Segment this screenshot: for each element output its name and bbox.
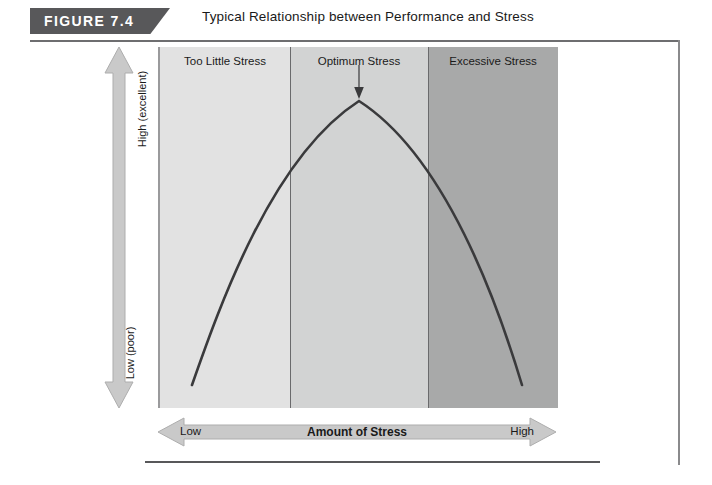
footer-rule <box>145 461 600 463</box>
y-axis-title: Level of Performance <box>104 217 134 231</box>
x-axis-high-label: High <box>510 425 534 437</box>
figure-header: FIGURE 7.4 Typical Relationship between … <box>30 8 680 34</box>
x-axis: Low Amount of Stress High <box>158 416 556 448</box>
figure-title: Typical Relationship between Performance… <box>202 9 534 24</box>
figure-number-tag: FIGURE 7.4 <box>30 8 170 34</box>
performance-stress-curve <box>160 47 558 408</box>
header-divider-rule <box>30 40 680 42</box>
peak-annotation-arrow-icon <box>354 65 364 99</box>
x-axis-title: Amount of Stress <box>158 425 556 439</box>
plot-area: Too Little Stress Optimum Stress Excessi… <box>158 47 556 408</box>
y-axis-high-label: High (excellent) <box>104 103 134 115</box>
y-axis: High (excellent) Level of Performance Lo… <box>104 47 134 408</box>
right-border-rule <box>678 40 680 465</box>
y-axis-low-label: Low (poor) <box>104 347 134 359</box>
